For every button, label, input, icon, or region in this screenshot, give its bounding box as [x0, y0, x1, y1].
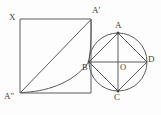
arc-a2-to-b	[21, 63, 89, 93]
vertex-dot-b	[88, 61, 91, 64]
diagonal-line-a2-a1	[21, 20, 92, 93]
label-a: A	[115, 21, 122, 30]
label-o: O	[120, 63, 126, 72]
geometry-figure: X A′ A″ A B C D O	[0, 0, 161, 115]
label-b: B	[82, 63, 88, 72]
figure-canvas	[0, 0, 161, 115]
label-a-double-prime: A″	[4, 92, 14, 101]
label-c: C	[114, 93, 120, 102]
label-d: D	[148, 55, 155, 64]
label-x: X	[9, 13, 16, 22]
label-a-prime: A′	[92, 6, 100, 15]
vertex-dot-a	[117, 32, 120, 35]
